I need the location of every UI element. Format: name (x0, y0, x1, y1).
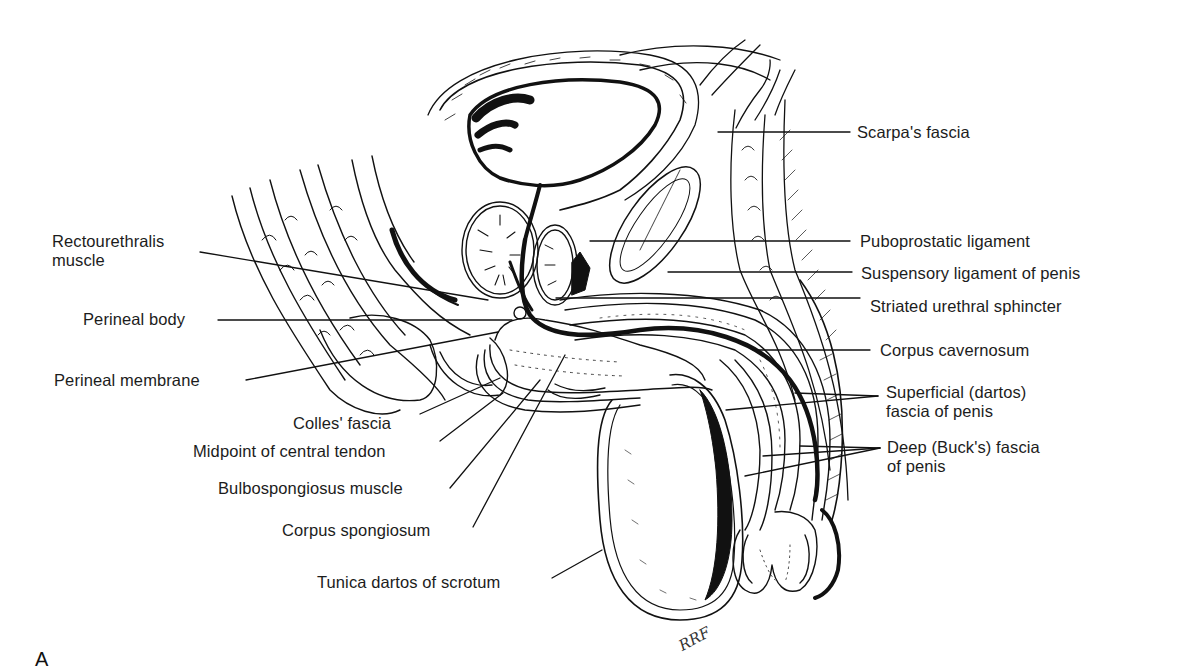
penile-shaft (560, 280, 842, 530)
pubic-symphysis (593, 153, 717, 297)
label-scarpas-fascia: Scarpa's fascia (857, 123, 970, 142)
dorsal-vein-complex (572, 252, 590, 295)
label-midpoint-central-tendon: Midpoint of central tendon (193, 442, 385, 461)
label-striated-urethral-sphincter: Striated urethral sphincter (870, 297, 1062, 316)
label-suspensory-ligament: Suspensory ligament of penis (861, 264, 1080, 283)
label-tunica-dartos-scrotum: Tunica dartos of scrotum (317, 573, 500, 592)
label-colles-fascia: Colles' fascia (293, 414, 391, 433)
label-corpus-cavernosum: Corpus cavernosum (880, 341, 1029, 360)
label-puboprostatic-ligament: Puboprostatic ligament (860, 232, 1030, 251)
label-superficial-dartos-fascia: Superficial (dartos) fascia of penis (886, 383, 1026, 421)
label-perineal-membrane: Perineal membrane (54, 371, 200, 390)
label-corpus-spongiosum: Corpus spongiosum (282, 521, 430, 540)
label-perineal-body: Perineal body (83, 310, 185, 329)
bladder (428, 51, 699, 240)
label-deep-bucks-fascia: Deep (Buck's) fascia of penis (887, 438, 1040, 476)
sagittal-section-drawing (0, 0, 1185, 671)
label-rectourethralis-muscle: Rectourethralis muscle (52, 232, 164, 270)
anatomy-figure: Rectourethralis muscle Perineal body Per… (0, 0, 1185, 671)
panel-letter: A (35, 648, 48, 671)
label-bulbospongiosus-muscle: Bulbospongiosus muscle (218, 479, 403, 498)
